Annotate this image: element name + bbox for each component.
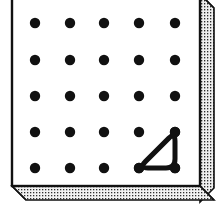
peg[interactable] xyxy=(99,55,109,65)
peg[interactable] xyxy=(134,91,144,101)
peg[interactable] xyxy=(134,55,144,65)
peg-vertex-bottom-left[interactable] xyxy=(134,163,144,173)
peg[interactable] xyxy=(65,91,75,101)
peg[interactable] xyxy=(99,163,109,173)
peg[interactable] xyxy=(30,91,40,101)
peg[interactable] xyxy=(99,18,109,28)
peg[interactable] xyxy=(170,18,180,28)
board-bottom-edge xyxy=(12,186,214,200)
peg[interactable] xyxy=(30,127,40,137)
peg[interactable] xyxy=(65,55,75,65)
board-right-edge xyxy=(200,0,214,202)
peg[interactable] xyxy=(134,127,144,137)
peg[interactable] xyxy=(65,163,75,173)
geoboard-canvas xyxy=(0,0,223,218)
peg[interactable] xyxy=(30,55,40,65)
peg[interactable] xyxy=(30,18,40,28)
peg[interactable] xyxy=(134,18,144,28)
peg-vertex-top-right[interactable] xyxy=(170,127,180,137)
peg-vertex-bottom-right[interactable] xyxy=(170,163,180,173)
peg[interactable] xyxy=(99,91,109,101)
peg[interactable] xyxy=(170,55,180,65)
peg[interactable] xyxy=(65,127,75,137)
peg[interactable] xyxy=(170,91,180,101)
peg[interactable] xyxy=(99,127,109,137)
peg[interactable] xyxy=(30,163,40,173)
peg[interactable] xyxy=(65,18,75,28)
geoboard-figure: Geoboard showing a right triangle formed… xyxy=(0,0,223,218)
